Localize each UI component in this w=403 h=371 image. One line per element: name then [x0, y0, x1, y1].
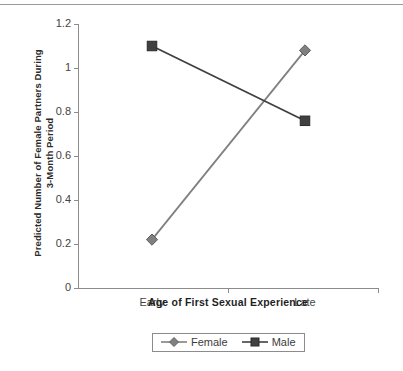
series-male: [147, 41, 310, 125]
y-tick-label: 0.8: [11, 105, 71, 117]
y-tick-label: 0.2: [11, 237, 71, 249]
x-tick-mark: [378, 288, 379, 293]
plot-area: 00.20.40.60.811.2 EarlyLate: [78, 24, 378, 288]
square-marker-icon: [242, 336, 268, 348]
y-tick-label: 0: [11, 281, 71, 293]
y-tick-label: 0.6: [11, 149, 71, 161]
series-line: [152, 46, 305, 121]
legend-label-female: Female: [191, 336, 228, 348]
legend-item-female[interactable]: Female: [161, 336, 228, 348]
diamond-marker-icon: [161, 336, 187, 348]
data-point-marker: [300, 116, 310, 126]
legend-label-male: Male: [272, 336, 296, 348]
series-line: [152, 50, 305, 239]
series-female: [146, 45, 310, 245]
interaction-line-chart: Predicted Number of Female Partners Duri…: [0, 0, 403, 371]
chart-legend: Female Male: [152, 333, 305, 352]
series-plot-svg: [78, 24, 378, 289]
y-tick-label: 0.4: [11, 193, 71, 205]
y-tick-label: 1.2: [11, 17, 71, 29]
data-point-marker: [147, 41, 157, 51]
x-axis-title: Age of First Sexual Experience: [78, 296, 378, 308]
legend-item-male[interactable]: Male: [242, 336, 296, 348]
y-tick-label: 1: [11, 61, 71, 73]
